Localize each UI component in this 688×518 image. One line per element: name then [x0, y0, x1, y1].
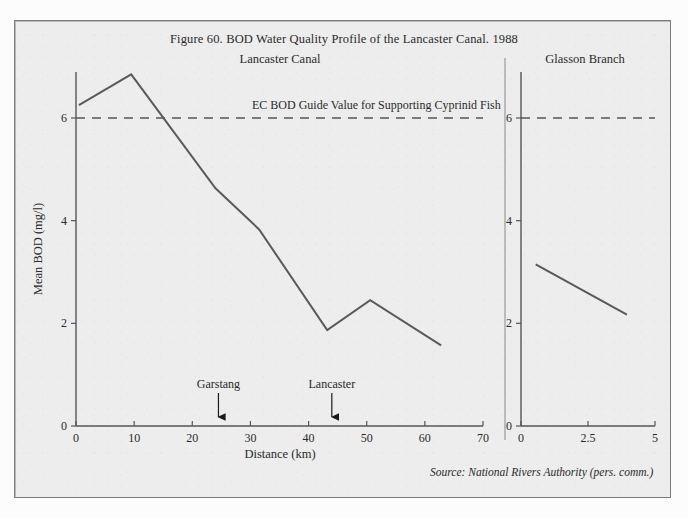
left-annotations: GarstangLancaster: [197, 377, 355, 417]
x-tick-label: 0: [518, 431, 524, 445]
y-tick-label: 4: [61, 214, 67, 228]
y-tick-label: 2: [506, 316, 512, 330]
x-tick-label: 10: [128, 431, 140, 445]
y-tick-label: 0: [506, 419, 512, 433]
x-tick-label: 0: [73, 431, 79, 445]
figure-page: Figure 60. BOD Water Quality Profile of …: [0, 0, 688, 518]
y-tick-label: 6: [61, 111, 67, 125]
y-axis-title: Mean BOD (mg/l): [31, 203, 45, 295]
x-tick-label: 5: [652, 431, 658, 445]
left-y-ticks: 0246: [61, 111, 76, 433]
y-tick-label: 4: [506, 214, 512, 228]
right-y-ticks: 0246: [506, 111, 521, 433]
x-tick-label: 60: [419, 431, 431, 445]
y-tick-label: 0: [61, 419, 67, 433]
chart-plot-area: 0246 010203040506070 GarstangLancaster M…: [0, 0, 688, 518]
x-tick-label: 40: [303, 431, 315, 445]
lancaster-canal-series: [79, 74, 441, 345]
x-axis-title: Distance (km): [244, 447, 315, 461]
x-tick-label: 30: [244, 431, 256, 445]
glasson-branch-series: [536, 264, 627, 314]
x-tick-label: 20: [186, 431, 198, 445]
y-tick-label: 2: [61, 316, 67, 330]
right-panel-axes: [521, 72, 655, 426]
x-tick-label: 2.5: [581, 431, 596, 445]
y-tick-label: 6: [506, 111, 512, 125]
x-tick-label: 50: [361, 431, 373, 445]
x-tick-label: 70: [477, 431, 489, 445]
annotation-label: Lancaster: [309, 377, 356, 391]
left-x-ticks: 010203040506070: [73, 421, 489, 445]
annotation-label: Garstang: [197, 377, 240, 391]
left-panel-axes: [76, 72, 483, 426]
right-x-ticks: 02.55: [518, 421, 658, 445]
